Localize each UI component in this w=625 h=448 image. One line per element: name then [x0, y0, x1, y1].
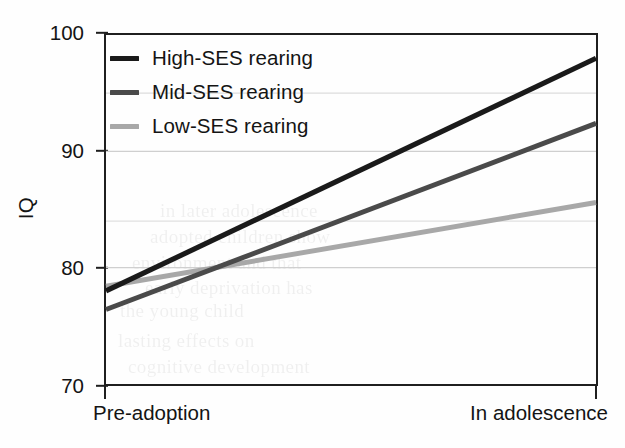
- x-tick-mark-pre-adoption: [104, 386, 106, 399]
- figure-root: the young child adopted children show en…: [0, 0, 625, 448]
- x-tick-mark-in-adolescence: [595, 386, 597, 399]
- y-axis: 100 90 80 70: [38, 0, 84, 448]
- legend-swatch-high-ses-icon: [110, 56, 139, 62]
- chart-legend: High-SES rearing Mid-SES rearing Low-SES…: [110, 46, 313, 139]
- y-tick-label-100: 100: [38, 23, 84, 44]
- y-tick-label-90: 90: [38, 141, 84, 162]
- legend-label-low-ses: Low-SES rearing: [152, 116, 308, 137]
- legend-item-high-ses: High-SES rearing: [110, 46, 313, 71]
- legend-item-mid-ses: Mid-SES rearing: [110, 80, 313, 105]
- legend-item-low-ses: Low-SES rearing: [110, 114, 313, 139]
- y-axis-title: IQ: [14, 176, 38, 240]
- legend-label-mid-ses: Mid-SES rearing: [152, 82, 304, 103]
- y-tick-label-80: 80: [38, 258, 84, 279]
- x-tick-label-in-adolescence: In adolescence: [470, 403, 608, 424]
- plot-area: High-SES rearing Mid-SES rearing Low-SES…: [104, 33, 598, 386]
- legend-swatch-mid-ses-icon: [110, 90, 139, 96]
- y-tick-label-70: 70: [38, 376, 84, 397]
- legend-swatch-low-ses-icon: [110, 124, 139, 130]
- legend-label-high-ses: High-SES rearing: [152, 48, 313, 69]
- x-tick-label-pre-adoption: Pre-adoption: [93, 403, 210, 424]
